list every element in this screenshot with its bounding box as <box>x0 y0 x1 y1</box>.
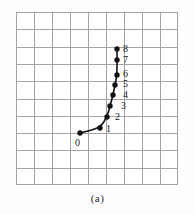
data-series <box>16 12 178 185</box>
figure-panel: 012345678 (a) <box>0 0 195 214</box>
data-point-8 <box>114 46 119 51</box>
data-point-1 <box>97 125 102 130</box>
data-point-4 <box>110 92 115 97</box>
series-line <box>80 49 117 133</box>
figure-caption: (a) <box>0 192 195 204</box>
data-point-5 <box>112 82 117 87</box>
point-label-1: 1 <box>106 124 111 134</box>
data-point-2 <box>104 114 109 119</box>
point-label-8: 8 <box>123 44 128 54</box>
point-label-5: 5 <box>123 79 128 89</box>
point-label-6: 6 <box>123 69 128 79</box>
point-label-2: 2 <box>115 112 120 122</box>
data-point-3 <box>107 103 112 108</box>
point-label-0: 0 <box>75 138 80 148</box>
point-label-7: 7 <box>123 55 128 65</box>
data-point-7 <box>114 57 119 62</box>
point-label-4: 4 <box>123 90 128 100</box>
point-label-3: 3 <box>121 101 126 111</box>
data-point-6 <box>114 72 119 77</box>
data-point-0 <box>77 130 82 135</box>
plot-area: 012345678 <box>16 12 178 185</box>
